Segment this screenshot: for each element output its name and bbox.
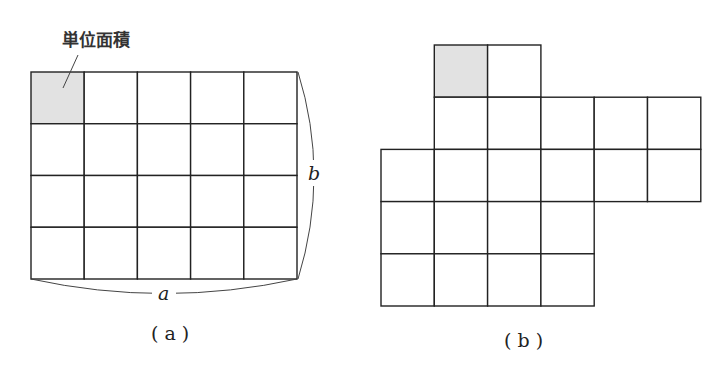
grid-cell [648, 97, 701, 149]
grid-cell [191, 176, 244, 228]
grid-cell [84, 72, 137, 124]
grid-cell [244, 124, 297, 176]
grid-cell [541, 149, 594, 201]
height-label-b: b [308, 162, 320, 184]
grid-cell [84, 227, 137, 279]
grid-cell [84, 176, 137, 228]
unit-area-cell [434, 45, 487, 97]
grid-cell [434, 254, 487, 306]
grid-cell [488, 202, 541, 254]
grid-cell [541, 97, 594, 149]
caption-b: ( b ) [504, 329, 543, 351]
grid-cell [191, 124, 244, 176]
grid-cell [31, 176, 84, 228]
grid-cell [244, 72, 297, 124]
unit-area-label: 単位面積 [62, 30, 131, 50]
grid-cell [648, 149, 701, 201]
grid-cell [488, 149, 541, 201]
unit-area-cell [31, 72, 84, 124]
grid-cell [31, 227, 84, 279]
grid-cell [137, 176, 190, 228]
grid-cell [541, 202, 594, 254]
grid-cell [31, 124, 84, 176]
figure-b-grid [381, 45, 701, 306]
caption-a: ( a ) [151, 322, 189, 344]
grid-cell [434, 149, 487, 201]
grid-cell [244, 227, 297, 279]
grid-cell [137, 124, 190, 176]
grid-cell [381, 149, 434, 201]
grid-cell [191, 227, 244, 279]
grid-cell [488, 45, 541, 97]
grid-cell [594, 149, 647, 201]
diagram-canvas: 単位面積 b a ( a ) ( b ) [0, 0, 717, 368]
grid-cell [488, 254, 541, 306]
grid-cell [594, 97, 647, 149]
grid-cell [541, 254, 594, 306]
grid-cell [434, 202, 487, 254]
width-label-a: a [158, 282, 169, 304]
grid-cell [84, 124, 137, 176]
grid-cell [381, 254, 434, 306]
grid-cell [191, 72, 244, 124]
grid-cell [434, 97, 487, 149]
grid-cell [381, 202, 434, 254]
grid-cell [137, 227, 190, 279]
grid-cell [488, 97, 541, 149]
figure-a-grid [31, 72, 297, 279]
grid-cell [244, 176, 297, 228]
grid-cell [137, 72, 190, 124]
